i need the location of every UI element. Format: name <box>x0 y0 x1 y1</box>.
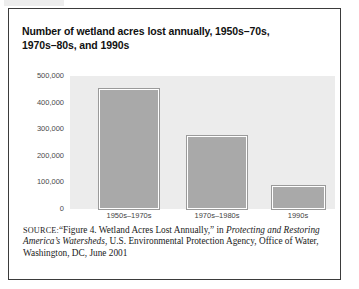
scan-artifact <box>4 0 64 6</box>
x-tick-label: 1970s–1980s <box>194 211 239 220</box>
bar-1970s-1980s <box>187 136 247 209</box>
y-tick-label: 0 <box>60 205 64 213</box>
figure-title-line-1: Number of wetland acres lost annually, 1… <box>22 25 270 37</box>
figure-frame: Number of wetland acres lost annually, 1… <box>8 8 341 280</box>
y-tick-label: 400,000 <box>37 99 64 107</box>
y-tick-label: 500,000 <box>37 72 64 80</box>
x-tick-label: 1950s–1970s <box>106 211 151 220</box>
bar-chart: 500,000 400,000 300,000 200,000 100,000 … <box>22 65 335 218</box>
source-note: SOURCE:“Figure 4. Wetland Acres Lost Ann… <box>23 225 323 259</box>
y-tick-label: 300,000 <box>37 125 64 133</box>
y-tick-label: 200,000 <box>37 152 64 160</box>
figure-title-line-2: 1970s–80s, and 1990s <box>22 38 317 52</box>
bar-1990s <box>272 186 325 209</box>
page-title: Number of wetland acres lost annually, 1… <box>22 24 317 52</box>
bar-1950s-1970s <box>99 89 159 209</box>
bars-layer <box>70 76 335 209</box>
source-text-part-1: “Figure 4. Wetland Acres Lost Annually,”… <box>59 225 226 235</box>
x-axis: 1950s–1970s 1970s–1980s 1990s <box>70 211 335 225</box>
x-tick-label: 1990s <box>288 211 308 220</box>
y-axis: 500,000 400,000 300,000 200,000 100,000 … <box>22 65 67 218</box>
y-tick-label: 100,000 <box>37 178 64 186</box>
plot-area <box>70 76 335 209</box>
source-label: SOURCE: <box>23 226 59 235</box>
